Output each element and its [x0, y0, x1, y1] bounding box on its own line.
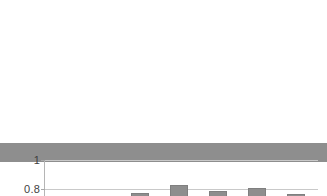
y-tick-label-0-8: 0.8 [0, 184, 40, 195]
x-axis-ticks [44, 143, 318, 196]
bar-chart: 1 0.8 0.6 0.4 0.2 0 pre op 1 week [0, 143, 327, 162]
y-tick-label-1: 1 [0, 155, 40, 166]
y-axis-ticks: 1 0.8 0.6 0.4 0.2 0 [0, 143, 40, 196]
